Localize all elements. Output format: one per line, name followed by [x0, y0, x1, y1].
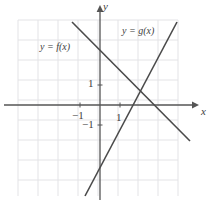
- tick-label-y-neg1: −1: [82, 119, 94, 130]
- graph-figure: y x 1 −1 −1 1 y = f(x) y = g(x): [0, 0, 213, 205]
- x-axis-label: x: [201, 106, 206, 117]
- tick-label-y-1: 1: [88, 78, 94, 89]
- curve-label-g: y = g(x): [122, 26, 154, 36]
- coordinate-plane-svg: [0, 0, 213, 205]
- curve-label-f: y = f(x): [40, 42, 70, 52]
- tick-label-x-1: 1: [116, 112, 122, 123]
- function-lines: [72, 22, 190, 196]
- y-axis-label: y: [103, 1, 108, 12]
